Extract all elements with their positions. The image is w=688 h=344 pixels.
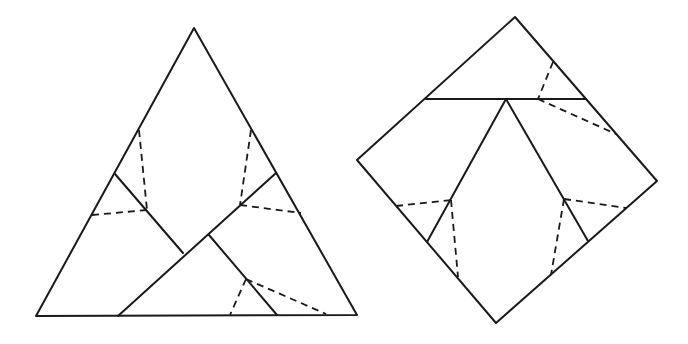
fold-line — [230, 279, 246, 315]
dissected-square-outline — [357, 17, 657, 323]
fold-line — [240, 130, 251, 205]
dissected-square — [357, 17, 657, 323]
fold-line — [564, 199, 626, 208]
fold-line — [92, 210, 147, 215]
fold-line — [396, 200, 451, 206]
cut-line — [209, 235, 277, 315]
dissection-diagram — [0, 0, 688, 344]
fold-line — [538, 99, 616, 134]
cut-line — [506, 99, 588, 241]
fold-line — [246, 279, 326, 314]
cut-line — [118, 173, 276, 316]
fold-line — [240, 205, 301, 213]
fold-line — [139, 130, 147, 210]
cut-line — [115, 174, 183, 253]
fold-line — [451, 200, 458, 277]
dissected-triangle — [36, 28, 357, 316]
cut-line — [427, 99, 506, 242]
fold-line — [538, 62, 553, 99]
dissected-triangle-outline — [36, 28, 357, 316]
